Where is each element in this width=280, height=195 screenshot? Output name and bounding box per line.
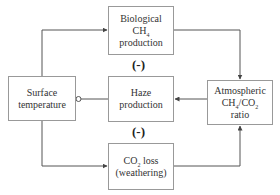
node-co2-loss-weathering: CO2 loss (weathering) xyxy=(108,143,174,190)
feedback-sign-lower: (-) xyxy=(132,124,145,140)
node-surface-temperature: Surface temperature xyxy=(8,76,76,121)
node-biological-ch4-production: Biological CH4 production xyxy=(108,6,174,55)
feedback-sign-upper: (-) xyxy=(132,57,145,73)
node-label: Biological xyxy=(120,13,162,25)
node-atmospheric-ch4-co2-ratio: Atmospheric CH4/CO2 ratio xyxy=(207,80,273,125)
node-haze-production: Haze production xyxy=(108,76,174,122)
